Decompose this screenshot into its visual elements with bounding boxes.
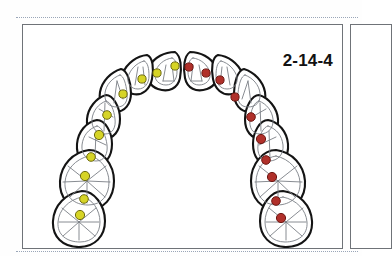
diagram-panel: 2-14-4	[22, 24, 343, 249]
yellow-marker	[75, 210, 84, 219]
yellow-marker	[119, 90, 127, 98]
arch-svg	[23, 25, 342, 248]
yellow-marker	[103, 111, 112, 120]
dotted-guide-top	[16, 17, 358, 18]
yellow-marker	[94, 130, 103, 139]
red-marker	[202, 69, 210, 77]
red-marker	[216, 76, 224, 84]
yellow-marker	[171, 62, 179, 70]
red-marker	[247, 113, 256, 122]
red-marker	[262, 156, 271, 165]
red-marker	[276, 213, 285, 222]
red-marker	[267, 172, 276, 181]
yellow-marker	[153, 69, 161, 77]
teeth-outlines	[53, 52, 312, 247]
yellow-marker	[80, 195, 89, 204]
yellow-marker	[80, 171, 89, 180]
yellow-marker	[87, 153, 96, 162]
yellow-marker	[138, 75, 146, 83]
red-marker	[272, 197, 281, 206]
red-marker	[185, 63, 193, 71]
dotted-guide-bottom	[16, 251, 358, 252]
dental-arch-diagram	[23, 25, 342, 248]
red-marker	[231, 93, 239, 101]
adjacent-panel	[350, 24, 392, 249]
red-marker	[256, 134, 265, 143]
